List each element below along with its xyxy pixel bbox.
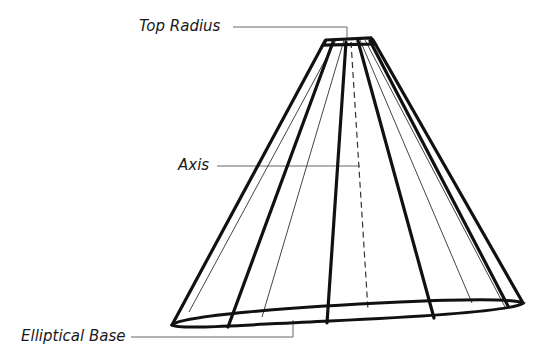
cone-drawing	[0, 0, 545, 363]
elliptical-base	[172, 300, 523, 327]
top-radius-label: Top Radius	[139, 19, 220, 34]
leader-lines	[131, 27, 360, 337]
axis-line	[351, 42, 368, 310]
thin-generators	[189, 40, 505, 317]
top-radius-leader	[233, 27, 347, 38]
axis-label: Axis	[178, 158, 209, 173]
thick-generators	[172, 40, 523, 327]
cone-diagram: Top Radius Axis Elliptical Base	[0, 0, 545, 363]
elliptical-base-label: Elliptical Base	[21, 329, 125, 344]
